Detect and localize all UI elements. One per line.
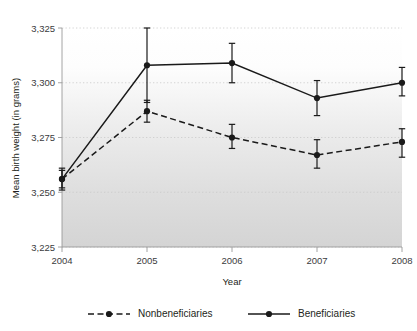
chart-legend: NonbeneficiariesBeneficiaries [88, 308, 355, 319]
data-point-marker [314, 152, 320, 158]
x-tick-label: 2005 [136, 255, 157, 266]
data-point-marker [144, 108, 150, 114]
legend-item-nonbeneficiaries: Nonbeneficiaries [88, 308, 213, 319]
x-tick-label: 2004 [51, 255, 72, 266]
y-tick-label: 3,325 [31, 23, 55, 34]
legend-swatch-marker [106, 311, 112, 317]
y-tick-label: 3,225 [31, 242, 55, 253]
y-tick-label: 3,275 [31, 132, 55, 143]
x-axis-ticks: 20042005200620072008 [51, 247, 412, 266]
legend-label: Beneficiaries [298, 308, 355, 319]
data-point-marker [144, 62, 150, 68]
x-tick-label: 2006 [221, 255, 242, 266]
chart-figure: 3,2253,2503,2753,3003,325 20042005200620… [0, 0, 417, 331]
chart-canvas: 3,2253,2503,2753,3003,325 20042005200620… [0, 0, 417, 331]
x-tick-label: 2008 [391, 255, 412, 266]
data-point-marker [399, 80, 405, 86]
y-axis-title: Mean birth weight (in grams) [10, 78, 21, 198]
legend-item-beneficiaries: Beneficiaries [248, 308, 355, 319]
legend-label: Nonbeneficiaries [138, 308, 213, 319]
x-axis-title: Year [222, 276, 241, 287]
y-tick-label: 3,300 [31, 77, 55, 88]
data-point-marker [399, 139, 405, 145]
data-point-marker [229, 60, 235, 66]
data-point-marker [229, 134, 235, 140]
data-point-marker [59, 176, 65, 182]
y-tick-label: 3,250 [31, 187, 55, 198]
x-tick-label: 2007 [306, 255, 327, 266]
y-axis-ticks: 3,2253,2503,2753,3003,325 [31, 23, 62, 253]
data-point-marker [314, 95, 320, 101]
legend-swatch-marker [266, 311, 272, 317]
